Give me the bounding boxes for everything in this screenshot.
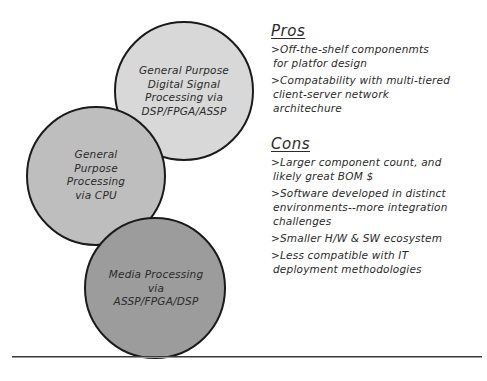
cons-item-line: >Smaller H/W & SW ecosystem	[271, 231, 481, 245]
bottom-divider	[12, 356, 482, 358]
label-line: via	[95, 282, 217, 296]
pros-item-line: architechure	[271, 101, 481, 115]
label-line: Media Processing	[95, 268, 217, 282]
label-line: Processing via	[124, 91, 244, 105]
pros-heading: Pros	[271, 22, 481, 40]
label-line: General Purpose	[124, 64, 244, 78]
cons-item-line: >Larger component count, and	[271, 155, 481, 169]
circle-cpu-label: General Purpose Processing via CPU	[46, 148, 146, 202]
label-line: Processing	[46, 175, 146, 189]
label-line: DSP/FPGA/ASSP	[124, 105, 244, 119]
pros-item-line: for platfor design	[271, 56, 481, 70]
cons-item-line: environments--more integration	[271, 200, 481, 214]
cons-item-line: >Less compatible with IT	[271, 248, 481, 262]
pros-item-line: >Off-the-shelf componenmts	[271, 42, 481, 56]
cons-item: >Less compatible with IT deployment meth…	[271, 248, 481, 276]
pros-item-line: client-server network	[271, 87, 481, 101]
cons-item-line: likely great BOM $	[271, 169, 481, 183]
pros-section: Pros >Off-the-shelf componenmts for plat…	[271, 22, 481, 118]
label-line: Purpose	[46, 162, 146, 176]
label-line: Digital Signal	[124, 78, 244, 92]
cons-section: Cons >Larger component count, and likely…	[271, 135, 481, 279]
circle-dsp-label: General Purpose Digital Signal Processin…	[124, 64, 244, 118]
cons-item-line: >Software developed in distinct	[271, 186, 481, 200]
cons-item: >Larger component count, and likely grea…	[271, 155, 481, 183]
cons-heading: Cons	[271, 135, 481, 153]
label-line: General	[46, 148, 146, 162]
label-line: ASSP/FPGA/DSP	[95, 295, 217, 309]
pros-item: >Off-the-shelf componenmts for platfor d…	[271, 42, 481, 70]
pros-item-line: >Compatability with multi-tiered	[271, 73, 481, 87]
label-line: via CPU	[46, 189, 146, 203]
cons-item-line: deployment methodologies	[271, 262, 481, 276]
circle-media-label: Media Processing via ASSP/FPGA/DSP	[95, 268, 217, 309]
cons-item: >Software developed in distinct environm…	[271, 186, 481, 228]
cons-item-line: challenges	[271, 214, 481, 228]
cons-item: >Smaller H/W & SW ecosystem	[271, 231, 481, 245]
pros-item: >Compatability with multi-tiered client-…	[271, 73, 481, 115]
